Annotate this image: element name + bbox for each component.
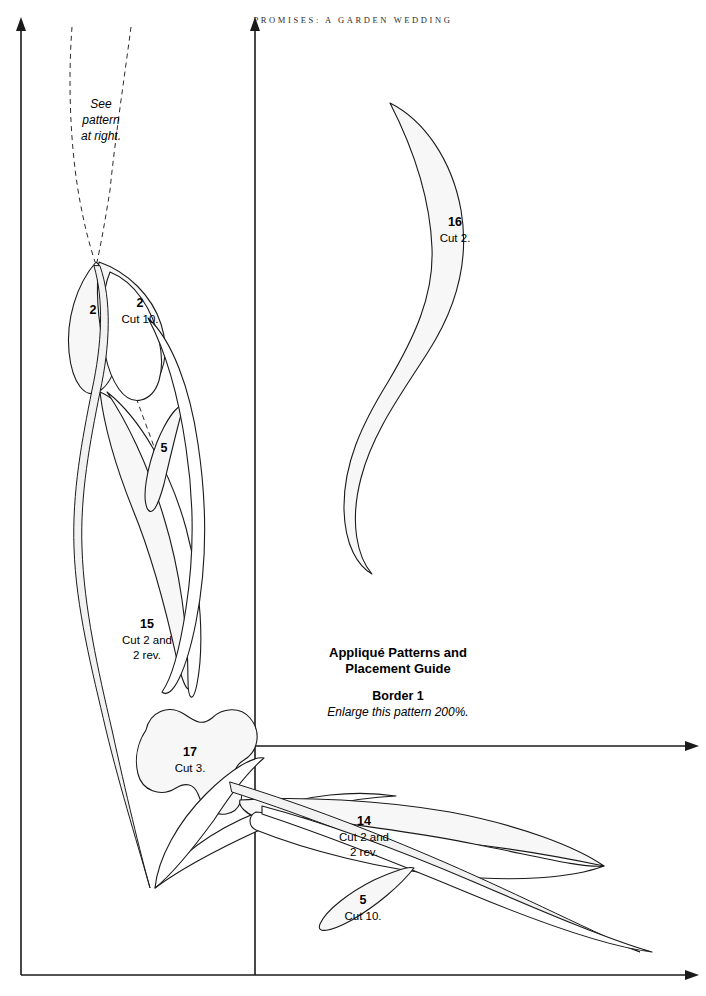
label-piece-15-cut-line2: 2 rev. [133,649,161,661]
see-pattern-note: See pattern at right. [81,97,121,143]
dashed-guide-left [70,27,95,262]
caption-note: Enlarge this pattern 200%. [327,705,468,719]
see-pattern-line-2: pattern [81,113,120,127]
piece-16-shape [344,103,464,574]
pattern-artwork: 2 2 Cut 10. 5 15 Cut 2 and 2 rev. 17 Cut… [0,0,706,996]
label-piece-2-right-cut: Cut 10. [121,313,158,325]
see-pattern-line-1: See [90,97,112,111]
piece-16-outline [344,103,464,574]
label-piece-5-lower-number: 5 [360,893,367,907]
label-piece-15-cut-line1: Cut 2 and [122,634,172,646]
label-piece-14-number: 14 [357,814,371,828]
caption-block: Appliqué Patterns and Placement Guide Bo… [327,645,468,719]
arrow-right-bottom-icon [685,970,699,980]
label-piece-17-cut: Cut 3. [175,762,206,774]
caption-subtitle: Border 1 [372,689,423,703]
label-piece-14-cut-line2: 2 rev. [350,846,378,858]
dashed-guide-right [97,27,131,262]
petal-overlay-outline [102,272,162,400]
arrow-up-left-icon [16,17,26,31]
label-piece-2-right-number: 2 [137,296,144,310]
caption-title-line-2: Placement Guide [345,661,450,676]
see-pattern-line-3: at right. [81,129,121,143]
label-piece-15-number: 15 [140,617,154,631]
label-piece-2-left-number: 2 [90,303,97,317]
label-piece-16-cut: Cut 2. [440,232,471,244]
arrow-up-center-icon [250,17,260,31]
arrow-right-mid-icon [685,741,699,751]
pattern-page: PROMISES: A GARDEN WEDDING [0,0,706,996]
petal-detail-lines [102,272,162,400]
label-piece-5-upper-number: 5 [161,441,168,455]
label-piece-16-number: 16 [448,215,462,229]
label-piece-17-number: 17 [183,745,197,759]
label-piece-14-cut-line1: Cut 2 and [339,831,389,843]
label-piece-5-lower-cut: Cut 10. [344,910,381,922]
caption-title-line-1: Appliqué Patterns and [329,645,467,660]
